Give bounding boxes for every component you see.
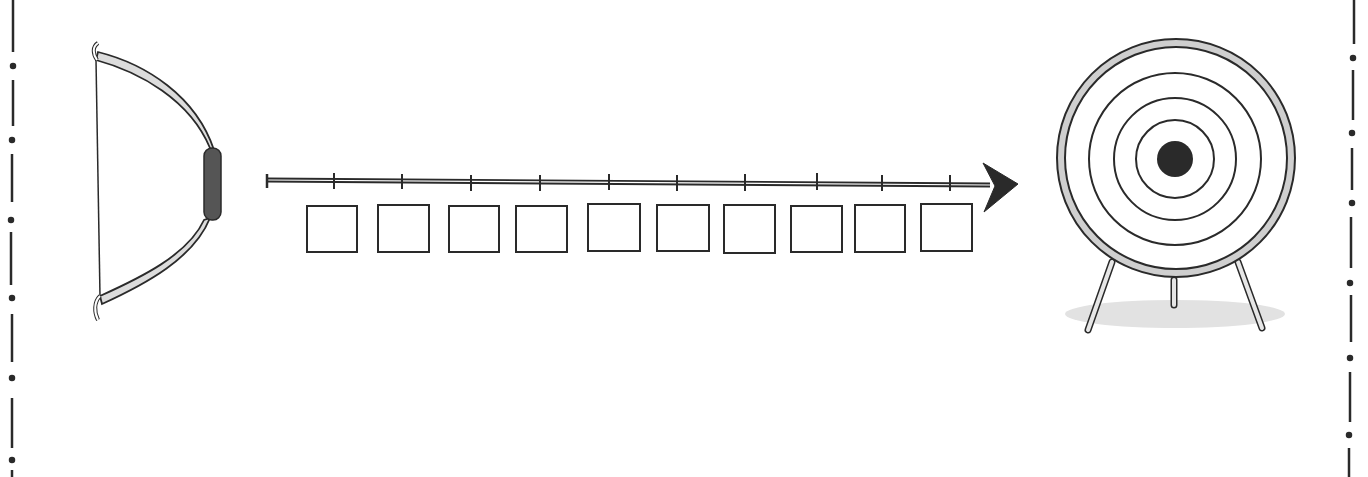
diagram-canvas [0,0,1368,477]
step-box-10 [921,204,972,251]
step-box-9 [855,205,905,252]
steps [307,204,972,253]
step-box-6 [657,205,709,251]
right-border [1347,0,1355,477]
step-box-2 [378,205,429,252]
step-box-8 [791,206,842,252]
step-box-3 [449,206,499,252]
step-box-7 [724,205,775,253]
step-box-1 [307,206,357,252]
target-icon [1057,39,1295,330]
left-border [9,0,15,477]
bow-icon [94,43,221,320]
step-box-5 [588,204,640,251]
step-box-4 [516,206,567,252]
